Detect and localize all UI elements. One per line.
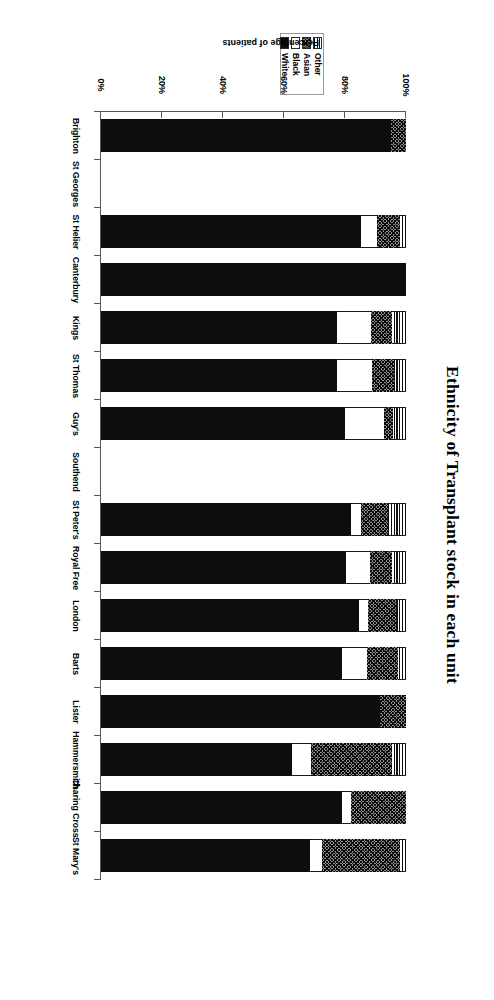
value-tick	[161, 111, 162, 118]
bar-segment-asian	[384, 408, 393, 441]
value-tick-label: 100%	[401, 73, 411, 96]
bar-segment-asian	[377, 216, 400, 249]
category-tick	[94, 159, 101, 160]
bar-segment-white	[101, 840, 310, 873]
bar-barts[interactable]	[101, 648, 406, 681]
plot-area	[101, 112, 406, 880]
bar-segment-asian	[371, 312, 392, 345]
bar-hammersmith[interactable]	[101, 744, 406, 777]
bar-segment-other	[394, 360, 406, 393]
bar-segment-other	[400, 840, 406, 873]
bar-segment-other	[392, 312, 406, 345]
bar-segment-black	[292, 744, 311, 777]
category-label: Royal Free	[71, 546, 81, 590]
category-tick	[94, 303, 101, 304]
bar-kings[interactable]	[101, 312, 406, 345]
category-label: Kings	[71, 316, 81, 340]
value-axis-title: Percentage of patients	[222, 38, 319, 48]
category-tick	[94, 399, 101, 400]
bar-segment-asian	[351, 792, 406, 825]
bar-segment-white	[101, 648, 342, 681]
bar-segment-asian	[322, 840, 400, 873]
bar-segment-black	[337, 360, 372, 393]
bar-segment-black	[310, 840, 322, 873]
category-label: St Peter's	[71, 500, 81, 539]
legend-entry-label: Asian	[302, 53, 311, 76]
chart-canvas: Ethnicity of Transplant stock in each un…	[0, 0, 494, 1000]
bar-segment-black	[342, 648, 367, 681]
bar-segment-asian	[370, 552, 392, 585]
category-label: Canterbury	[71, 257, 81, 303]
bar-segment-asian	[367, 648, 398, 681]
bar-segment-asian	[380, 696, 406, 729]
bar-segment-black	[337, 312, 371, 345]
bar-royal-free[interactable]	[101, 552, 406, 585]
rotated-chart-wrapper: Ethnicity of Transplant stock in each un…	[0, 0, 494, 1000]
bar-st-helier[interactable]	[101, 216, 406, 249]
category-label: St Georges	[71, 161, 81, 207]
bar-canterbury[interactable]	[101, 264, 406, 297]
bar-segment-black	[345, 408, 384, 441]
bar-segment-black	[359, 600, 368, 633]
bar-segment-white	[101, 312, 337, 345]
bar-segment-asian	[372, 360, 394, 393]
bar-segment-white	[101, 744, 292, 777]
value-tick-label: 40%	[218, 76, 228, 94]
legend-entry-label: Other	[313, 53, 322, 76]
bar-st-thomas[interactable]	[101, 360, 406, 393]
category-label: Barts	[71, 653, 81, 675]
category-label: St Thomas	[71, 354, 81, 398]
category-tick	[94, 207, 101, 208]
value-tick-label: 60%	[279, 76, 289, 94]
bar-lister[interactable]	[101, 696, 406, 729]
bar-segment-other	[398, 648, 406, 681]
bar-segment-other	[400, 216, 406, 249]
bar-segment-black	[361, 216, 377, 249]
bar-segment-asian	[368, 600, 396, 633]
value-tick	[100, 111, 101, 118]
category-tick	[94, 591, 101, 592]
bar-brighton[interactable]	[101, 120, 406, 153]
category-label: Lister	[71, 700, 81, 723]
bar-segment-black	[351, 504, 361, 537]
bar-segment-white	[101, 504, 351, 537]
category-tick	[94, 639, 101, 640]
bar-segment-white	[101, 552, 346, 585]
bar-st-mary-s[interactable]	[101, 840, 406, 873]
category-tick	[94, 255, 101, 256]
value-tick	[405, 111, 406, 118]
bar-segment-white	[101, 408, 345, 441]
bar-segment-white	[101, 792, 342, 825]
category-label: Hammersmith	[71, 731, 81, 788]
category-axis-line	[100, 112, 101, 880]
category-label: Southend	[71, 452, 81, 492]
value-tick-label: 20%	[157, 76, 167, 94]
bar-segment-black	[342, 792, 351, 825]
value-tick	[283, 111, 284, 118]
value-tick-label: 0%	[96, 78, 106, 91]
bar-st-peter-s[interactable]	[101, 504, 406, 537]
bar-segment-asian	[311, 744, 392, 777]
category-label: Guy's	[71, 412, 81, 436]
bar-segment-black	[346, 552, 370, 585]
bar-segment-white	[101, 216, 361, 249]
bar-segment-other	[392, 744, 406, 777]
bar-segment-other	[393, 408, 406, 441]
chart-title: Ethnicity of Transplant stock in each un…	[436, 300, 470, 750]
category-tick	[94, 879, 101, 880]
bar-charing-cross[interactable]	[101, 792, 406, 825]
bar-segment-asian	[391, 120, 406, 153]
bar-segment-other	[396, 600, 406, 633]
category-tick	[94, 831, 101, 832]
bar-segment-white	[101, 600, 359, 633]
category-label: St Mary's	[71, 837, 81, 875]
category-tick	[94, 351, 101, 352]
bar-segment-white	[101, 360, 337, 393]
category-label: St Helier	[71, 215, 81, 250]
value-tick-label: 80%	[340, 76, 350, 94]
bar-segment-other	[388, 504, 406, 537]
value-tick	[344, 111, 345, 118]
bar-london[interactable]	[101, 600, 406, 633]
bar-segment-white	[101, 696, 380, 729]
bar-guy-s[interactable]	[101, 408, 406, 441]
